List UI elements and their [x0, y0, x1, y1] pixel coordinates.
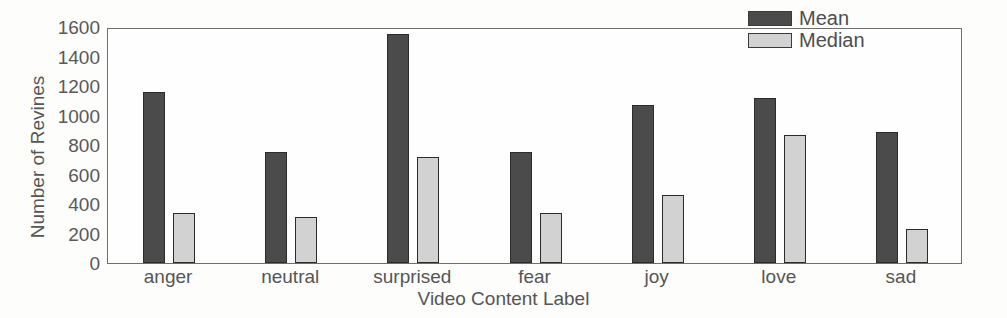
bar-joy-median: [662, 195, 684, 263]
x-axis-category-label-neutral: neutral: [261, 266, 319, 288]
legend-item-mean: Mean: [748, 8, 865, 28]
y-axis-tick-label: 400: [0, 194, 110, 216]
bar-sad-median: [906, 229, 928, 263]
y-axis-tick-label: 1400: [0, 47, 110, 69]
legend: Mean Median: [748, 8, 865, 50]
x-axis-category-label-sad: sad: [886, 266, 917, 288]
y-axis-tick-label: 1600: [0, 17, 110, 39]
bar-love-median: [784, 135, 806, 263]
bar-fear-median: [540, 213, 562, 263]
legend-swatch-mean-icon: [748, 11, 792, 26]
y-axis-tick-label: 200: [0, 224, 110, 246]
bar-sad-mean: [876, 132, 898, 263]
chart-page: Number of Revines 0200400600800100012001…: [0, 0, 1007, 318]
x-axis-category-label-fear: fear: [518, 266, 551, 288]
legend-swatch-median-icon: [748, 33, 792, 48]
x-axis-category-label-love: love: [761, 266, 796, 288]
bar-neutral-mean: [265, 152, 287, 263]
bar-fear-mean: [510, 152, 532, 263]
y-axis-tick-label: 0: [0, 253, 110, 275]
bar-surprised-mean: [387, 34, 409, 263]
y-axis-tick-label: 800: [0, 135, 110, 157]
legend-item-median: Median: [748, 30, 865, 50]
bar-love-mean: [754, 98, 776, 263]
y-axis-tick-label: 1200: [0, 76, 110, 98]
bar-joy-mean: [632, 105, 654, 263]
y-axis-tick-label: 600: [0, 165, 110, 187]
x-axis-category-label-anger: anger: [144, 266, 193, 288]
plot-area: [107, 28, 962, 264]
bar-surprised-median: [417, 157, 439, 263]
x-axis-category-label-surprised: surprised: [373, 266, 451, 288]
legend-label-median: Median: [799, 30, 865, 50]
bar-neutral-median: [295, 217, 317, 263]
x-axis-category-label-joy: joy: [644, 266, 668, 288]
y-axis-tick-label: 1000: [0, 106, 110, 128]
legend-label-mean: Mean: [799, 8, 849, 28]
bar-anger-mean: [143, 92, 165, 263]
x-axis-label: Video Content Label: [0, 288, 1007, 310]
bar-anger-median: [173, 213, 195, 263]
